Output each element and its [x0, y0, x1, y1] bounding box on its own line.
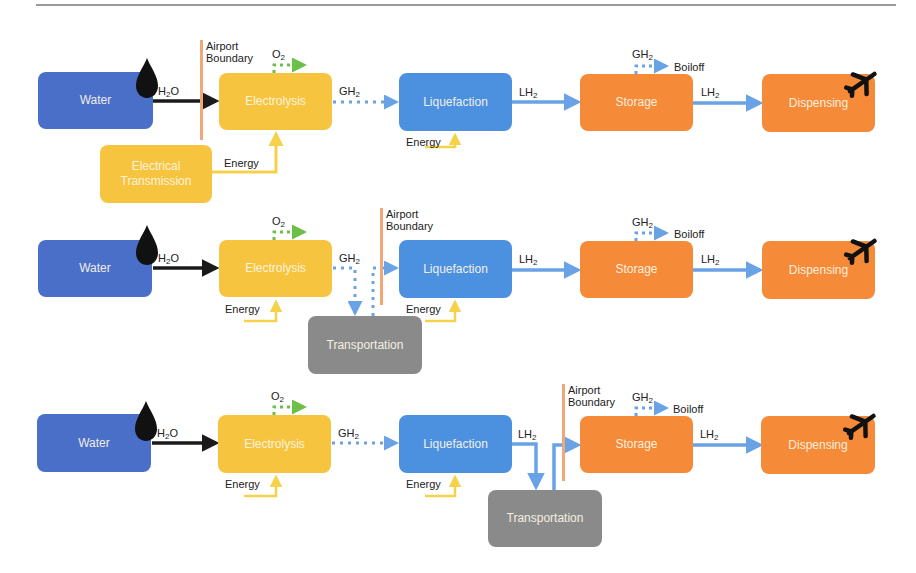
- lh2-label-2: LH2: [700, 428, 719, 440]
- node-dispensing: Dispensing: [761, 416, 875, 474]
- hydrogen-supply-chain-diagram: Water Electrolysis ElectricalTransmissio…: [0, 0, 916, 573]
- gh2-boiloff-label: GH2: [632, 48, 653, 60]
- airport-boundary-label: AirportBoundary: [386, 208, 433, 232]
- gh2-boiloff-label: GH2: [632, 391, 653, 403]
- h2o-label: H2O: [157, 427, 178, 439]
- gh2-label: GH2: [338, 427, 359, 439]
- energy-label-liquefaction: Energy: [406, 136, 441, 148]
- boiloff-label: Boiloff: [674, 61, 704, 73]
- node-storage: Storage: [580, 241, 693, 298]
- node-storage: Storage: [580, 416, 693, 473]
- node-electrolysis: Electrolysis: [219, 73, 332, 130]
- o2-arrow: [274, 65, 304, 73]
- energy-label-electrolysis: Energy: [225, 478, 260, 490]
- node-water: Water: [37, 414, 151, 472]
- o2-label: O2: [271, 390, 284, 402]
- node-electrolysis: Electrolysis: [219, 240, 332, 297]
- node-electrical-transmission: ElectricalTransmission: [100, 145, 212, 203]
- energy-label-liquefaction: Energy: [406, 303, 441, 315]
- airport-boundary-line: [380, 208, 383, 305]
- node-dispensing: Dispensing: [762, 74, 875, 132]
- gh2-label: GH2: [339, 252, 360, 264]
- node-liquefaction: Liquefaction: [399, 73, 512, 131]
- h2o-label: H2O: [158, 252, 179, 264]
- node-water: Water: [38, 240, 152, 297]
- energy-label-electrolysis: Energy: [225, 303, 260, 315]
- lh2-label-1: LH2: [518, 428, 537, 440]
- o2-label: O2: [272, 215, 285, 227]
- boiloff-label: Boiloff: [674, 228, 704, 240]
- energy-label-electrolysis: Energy: [224, 157, 259, 169]
- boiloff-label: Boiloff: [673, 403, 703, 415]
- node-transportation: Transportation: [488, 490, 602, 547]
- lh2-label-2: LH2: [701, 253, 720, 265]
- node-storage: Storage: [580, 74, 693, 131]
- node-water: Water: [38, 72, 153, 129]
- lh2-label-1: LH2: [519, 253, 538, 265]
- o2-label: O2: [272, 48, 285, 60]
- node-dispensing: Dispensing: [762, 241, 875, 299]
- node-electrolysis: Electrolysis: [218, 415, 331, 473]
- airport-boundary-label: AirportBoundary: [568, 384, 615, 408]
- lh2-label-1: LH2: [519, 86, 538, 98]
- node-liquefaction: Liquefaction: [399, 415, 512, 473]
- boiloff-arrow: [636, 66, 666, 74]
- h2o-label: H2O: [158, 85, 179, 97]
- airport-boundary-label: AirportBoundary: [206, 40, 253, 64]
- energy-label-liquefaction: Energy: [406, 478, 441, 490]
- gh2-boiloff-label: GH2: [632, 216, 653, 228]
- node-liquefaction: Liquefaction: [399, 240, 512, 298]
- lh2-label-2: LH2: [701, 86, 720, 98]
- airport-boundary-line: [200, 40, 203, 140]
- gh2-label: GH2: [339, 85, 360, 97]
- airport-boundary-line: [562, 384, 565, 481]
- node-transportation: Transportation: [308, 316, 422, 374]
